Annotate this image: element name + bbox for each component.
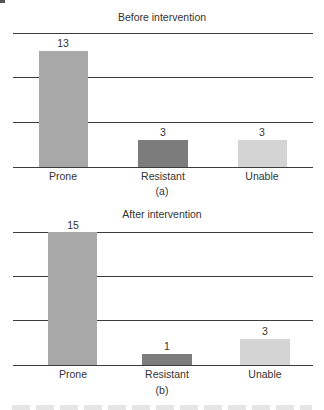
category-label: Unable [225, 368, 305, 380]
cut-off-caption [12, 405, 312, 410]
category-label: Unable [222, 170, 302, 182]
bar-resistant [138, 140, 188, 167]
category-label: Resistant [127, 368, 207, 380]
category-label: Prone [33, 368, 113, 380]
corner-mark [0, 0, 5, 3]
value-label: 3 [237, 126, 287, 138]
value-label: 3 [240, 325, 290, 337]
chart-subtitle: (a) [0, 185, 324, 197]
bar-unable [240, 339, 290, 365]
baseline [13, 167, 313, 168]
chart-title: Before intervention [0, 11, 324, 23]
bar-unable [238, 140, 287, 167]
bar-prone [39, 51, 88, 167]
category-label: Resistant [123, 170, 203, 182]
gridline [13, 33, 313, 34]
bar-prone [48, 232, 97, 365]
value-label: 3 [138, 126, 188, 138]
baseline [13, 365, 313, 366]
value-label: 1 [142, 340, 192, 352]
value-label: 13 [38, 37, 88, 49]
bar-resistant [142, 354, 192, 365]
chart-subtitle: (b) [0, 384, 324, 396]
value-label: 15 [48, 219, 98, 231]
category-label: Prone [23, 170, 103, 182]
